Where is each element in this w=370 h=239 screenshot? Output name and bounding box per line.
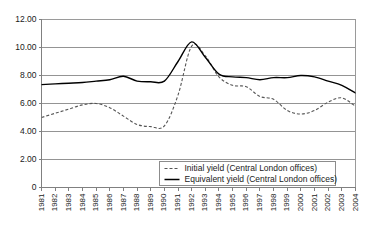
x-tick-label: 1990: [159, 193, 168, 211]
chart-canvas: 02.004.006.008.0010.0012.00 198119821983…: [0, 0, 370, 239]
x-axis: 1981198219831984198519861987198819891990…: [37, 188, 360, 212]
x-tick-label: 1984: [78, 193, 87, 211]
x-tick-label: 1992: [187, 193, 196, 211]
y-tick-label: 0: [32, 182, 37, 192]
y-tick-label: 10.00: [15, 42, 37, 52]
y-tick-label: 12.00: [15, 14, 37, 24]
x-tick-label: 1988: [132, 193, 141, 211]
legend-label: Initial yield (Central London offices): [185, 163, 318, 173]
x-tick-label: 1995: [228, 193, 237, 211]
x-tick-label: 1985: [91, 193, 100, 211]
x-tick-label: 1982: [50, 193, 59, 211]
series-line-initial-yield: [42, 44, 356, 128]
y-tick-label: 6.00: [20, 98, 37, 108]
gridlines: [42, 20, 356, 160]
legend-label: Equivalent yield (Central London offices…: [185, 174, 338, 184]
x-tick-label: 1981: [37, 193, 46, 211]
x-tick-label: 1989: [146, 193, 155, 211]
x-tick-label: 2001: [310, 193, 319, 211]
x-tick-label: 1983: [64, 193, 73, 211]
x-tick-label: 1987: [119, 193, 128, 211]
x-tick-label: 2000: [296, 193, 305, 211]
x-tick-label: 1991: [173, 193, 182, 211]
y-tick-label: 2.00: [20, 154, 37, 164]
data-series-group: [42, 42, 356, 129]
x-tick-label: 2002: [323, 193, 332, 211]
y-axis: 02.004.006.008.0010.0012.00: [15, 14, 41, 192]
yield-line-chart: 02.004.006.008.0010.0012.00 198119821983…: [0, 0, 370, 239]
x-tick-label: 2004: [351, 193, 360, 211]
series-line-equivalent-yield: [42, 42, 356, 93]
chart-legend: Initial yield (Central London offices)Eq…: [160, 162, 338, 186]
x-tick-label: 1986: [105, 193, 114, 211]
y-tick-label: 8.00: [20, 70, 37, 80]
x-tick-label: 1999: [282, 193, 291, 211]
x-tick-label: 1993: [200, 193, 209, 211]
x-tick-label: 1996: [241, 193, 250, 211]
x-tick-label: 2003: [337, 193, 346, 211]
x-tick-label: 1998: [269, 193, 278, 211]
x-tick-label: 1997: [255, 193, 264, 211]
y-tick-label: 4.00: [20, 126, 37, 136]
x-tick-label: 1994: [214, 193, 223, 211]
